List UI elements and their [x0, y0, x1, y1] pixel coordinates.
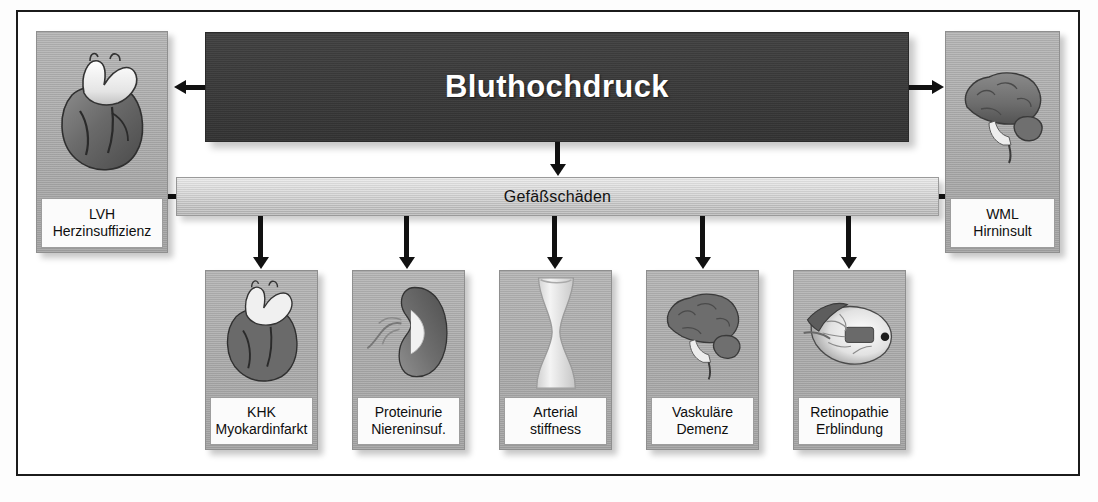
panel-caption-line1: WML [986, 206, 1019, 223]
panel-caption-line2: Demenz [676, 421, 728, 438]
panel-caption: KHK Myokardinfarkt [210, 397, 313, 445]
arrow-title-to-vascular [555, 142, 560, 165]
arrow-vascular-to-vaskulaere-demenz [700, 216, 705, 258]
arrow-vascular-to-retinopathie [846, 216, 851, 258]
heart-icon [206, 271, 317, 395]
panel-caption-line1: KHK [247, 404, 276, 421]
panel-caption-line2: Myokardinfarkt [216, 421, 308, 438]
panel-caption: Vaskuläre Demenz [651, 397, 754, 445]
panel-caption-line2: Herzinsuffizienz [53, 223, 152, 240]
artery-icon [500, 271, 611, 395]
eye-icon [794, 271, 905, 395]
kidney-icon [353, 271, 464, 395]
panel-caption: Arterial stiffness [504, 397, 607, 445]
panel-arterial-stiffness: Arterial stiffness [499, 270, 612, 450]
arrow-title-to-lvh [185, 85, 205, 90]
arrow-head-down-icon [253, 257, 269, 269]
arrow-head-down-icon [547, 257, 563, 269]
panel-caption-line1: Proteinurie [375, 404, 443, 421]
panel-caption: Proteinurie Niereninsuf. [357, 397, 460, 445]
brain-icon [647, 271, 758, 395]
panel-caption: WML Hirninsult [950, 198, 1055, 248]
arrow-vascular-to-khk [258, 216, 263, 258]
panel-caption-line2: Erblindung [816, 421, 883, 438]
arrow-head-left-icon [174, 80, 186, 94]
panel-proteinurie: Proteinurie Niereninsuf. [352, 270, 465, 450]
arrow-head-down-icon [841, 257, 857, 269]
brain-icon [946, 32, 1059, 196]
arrow-head-down-icon [399, 257, 415, 269]
arrow-head-down-icon [695, 257, 711, 269]
arrow-head-down-icon [550, 164, 566, 176]
page-title: Bluthochdruck [445, 69, 669, 105]
arrow-vascular-to-arterial-stiffness [552, 216, 557, 258]
arrow-title-to-wml [909, 85, 933, 90]
panel-caption-line2: Hirninsult [973, 223, 1031, 240]
arrow-head-right-icon [932, 80, 944, 94]
panel-caption-line1: Retinopathie [810, 404, 889, 421]
panel-khk: KHK Myokardinfarkt [205, 270, 318, 450]
diagram-canvas: Bluthochdruck Gefäßschäden [0, 0, 1098, 502]
panel-caption-line2: stiffness [530, 421, 581, 438]
panel-caption: LVH Herzinsuffizienz [41, 198, 163, 248]
vascular-damage-label: Gefäßschäden [504, 188, 611, 206]
panel-retinopathie: Retinopathie Erblindung [793, 270, 906, 450]
panel-caption-line2: Niereninsuf. [371, 421, 446, 438]
panel-lvh: LVH Herzinsuffizienz [36, 31, 168, 253]
panel-caption-line1: Arterial [533, 404, 577, 421]
heart-icon [37, 32, 167, 196]
panel-caption-line1: Vaskuläre [672, 404, 733, 421]
hypertension-title-bar: Bluthochdruck [205, 32, 909, 142]
arrow-vascular-to-proteinurie [404, 216, 409, 258]
panel-vaskulaere-demenz: Vaskuläre Demenz [646, 270, 759, 450]
panel-wml: WML Hirninsult [945, 31, 1060, 253]
panel-caption: Retinopathie Erblindung [798, 397, 901, 445]
vascular-damage-bar: Gefäßschäden [176, 177, 939, 216]
panel-caption-line1: LVH [89, 206, 115, 223]
